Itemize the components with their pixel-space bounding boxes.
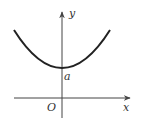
origin-label: O <box>47 101 56 114</box>
y-axis-label: y <box>68 7 76 20</box>
x-axis-label: x <box>123 101 130 114</box>
intercept-label: a <box>64 70 71 83</box>
function-graph: y a O x <box>0 0 142 125</box>
